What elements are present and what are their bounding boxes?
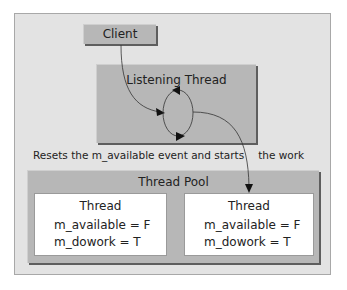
reset-caption: Resets the m_available event and startst… — [33, 149, 304, 161]
thread-title: Thread — [185, 199, 313, 213]
thread-available-flag: m_available = F — [54, 218, 150, 232]
thread-dowork-flag: m_dowork = T — [204, 235, 291, 249]
client-label: Client — [84, 27, 156, 41]
thread-title: Thread — [35, 199, 166, 213]
listening-thread-node: Listening Thread — [96, 64, 256, 143]
thread-pool-label: Thread Pool — [28, 175, 319, 189]
thread-node-2: Thread m_available = F m_dowork = T — [184, 193, 314, 256]
thread-available-flag: m_available = F — [204, 218, 300, 232]
listening-thread-label: Listening Thread — [97, 73, 256, 87]
thread-pool-node: Thread Pool Thread m_available = F m_dow… — [27, 170, 319, 263]
client-node: Client — [83, 24, 156, 44]
caption-text-after: the work — [258, 149, 304, 161]
thread-node-1: Thread m_available = F m_dowork = T — [34, 193, 167, 256]
caption-text-before: Resets the m_available event and starts — [33, 149, 244, 161]
thread-dowork-flag: m_dowork = T — [54, 235, 141, 249]
